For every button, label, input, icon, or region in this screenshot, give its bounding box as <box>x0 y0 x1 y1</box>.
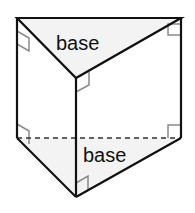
top-base-label: base <box>56 32 99 54</box>
bottom-base-label: base <box>83 144 126 166</box>
triangular-prism-diagram: base base <box>0 0 195 213</box>
right-angle-marker-top-left <box>17 31 29 51</box>
right-angle-marker-top-right <box>168 24 181 35</box>
prism-svg: base base <box>0 0 195 213</box>
right-angle-marker-bottom-right <box>168 125 181 138</box>
